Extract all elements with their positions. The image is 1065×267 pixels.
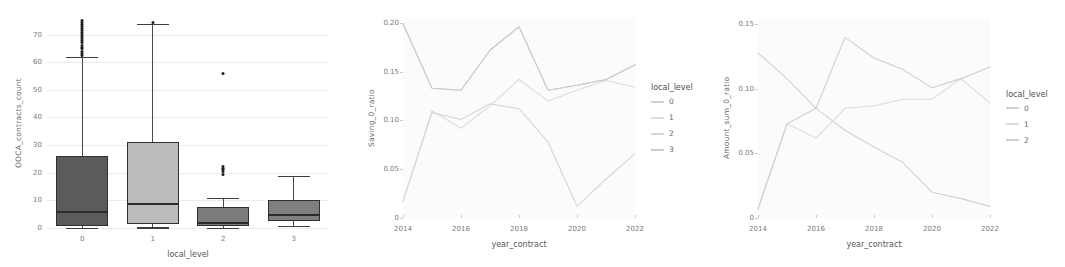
legend-label: 1	[669, 113, 674, 122]
boxplot-y-tick: 40	[0, 113, 42, 121]
legend-item[interactable]: 3	[651, 145, 693, 154]
legend-swatch	[651, 117, 664, 119]
median-line	[268, 214, 320, 216]
legend-swatch	[651, 133, 664, 135]
cap-lower	[278, 226, 310, 227]
box-rect	[268, 200, 320, 221]
saving-legend: local_level0123	[651, 83, 693, 161]
legend-label: 2	[669, 129, 674, 138]
line-y-tick: 0.10	[355, 116, 399, 124]
legend-label: 0	[669, 97, 674, 106]
line-x-tick: 2018	[865, 225, 883, 233]
line-y-tick: 0.10	[710, 85, 754, 93]
legend-swatch	[1006, 123, 1019, 125]
x-tickmark	[461, 215, 462, 218]
legend-title: local_level	[1006, 90, 1048, 99]
y-tickmark	[400, 169, 403, 170]
line-x-tick: 2022	[981, 225, 999, 233]
line-series	[403, 104, 635, 206]
y-tickmark	[755, 153, 758, 154]
legend-item[interactable]: 1	[651, 113, 693, 122]
cap-lower	[207, 228, 239, 229]
x-tickmark	[519, 215, 520, 218]
line-series	[758, 79, 990, 209]
legend-item[interactable]: 2	[651, 129, 693, 138]
line-x-tick: 2016	[807, 225, 825, 233]
legend-item[interactable]: 1	[1006, 120, 1048, 129]
boxplot-x-tick: 0	[80, 235, 84, 243]
line-y-tick: 0.05	[710, 149, 754, 157]
line-y-tick: 0.15	[355, 68, 399, 76]
saving-plot-area	[403, 18, 635, 218]
y-tickmark	[755, 24, 758, 25]
legend-label: 0	[1024, 104, 1029, 113]
legend-item[interactable]: 0	[1006, 104, 1048, 113]
y-tickmark	[400, 72, 403, 73]
y-tickmark	[755, 218, 758, 219]
legend-label: 1	[1024, 120, 1029, 129]
line-x-tick: 2016	[452, 225, 470, 233]
line-y-tick: 0.20	[355, 19, 399, 27]
boxplot-y-tick: 30	[0, 141, 42, 149]
y-tickmark	[755, 89, 758, 90]
y-tickmark	[400, 120, 403, 121]
x-tickmark	[816, 215, 817, 218]
x-tickmark	[874, 215, 875, 218]
legend-item[interactable]: 0	[651, 97, 693, 106]
line-x-tick: 2022	[626, 225, 644, 233]
boxplot-x-tick: 1	[151, 235, 155, 243]
boxplot-plot-area	[47, 18, 329, 228]
line-series	[758, 37, 990, 209]
boxplot-y-tick: 20	[0, 169, 42, 177]
legend-title: local_level	[651, 83, 693, 92]
boxplot-y-tick: 0	[0, 224, 42, 232]
line-y-tick: 0.15	[710, 20, 754, 28]
line-x-tick: 2020	[568, 225, 586, 233]
line-series-svg	[758, 18, 990, 218]
amount-plot-area	[758, 18, 990, 218]
amount-legend: local_level012	[1006, 90, 1048, 152]
line-x-tick: 2018	[510, 225, 528, 233]
line-x-tick: 2014	[394, 225, 412, 233]
y-tickmark	[400, 23, 403, 24]
saving-x-axis-label: year_contract	[403, 240, 635, 249]
line-y-tick: 0.05	[355, 165, 399, 173]
amount-x-axis-label: year_contract	[758, 240, 990, 249]
boxplot-y-tick: 60	[0, 58, 42, 66]
legend-swatch	[1006, 139, 1019, 141]
x-tickmark	[403, 215, 404, 218]
legend-swatch	[651, 149, 664, 151]
line-series	[403, 24, 635, 90]
y-tickmark	[400, 218, 403, 219]
line-x-tick: 2014	[749, 225, 767, 233]
x-tickmark	[932, 215, 933, 218]
x-tickmark	[758, 215, 759, 218]
cap-lower	[66, 228, 98, 229]
line-series-svg	[403, 18, 635, 218]
line-y-tick: 0	[355, 214, 399, 222]
boxplot-group	[47, 18, 329, 228]
boxplot-panel: OOCA_contracts_count local_level 0102030…	[0, 0, 355, 267]
amount-ratio-panel: Amount_sum_0_ratio year_contract local_l…	[710, 0, 1065, 267]
boxplot-y-tick: 50	[0, 86, 42, 94]
x-tickmark	[990, 215, 991, 218]
legend-label: 2	[1024, 136, 1029, 145]
legend-label: 3	[669, 145, 674, 154]
multi-panel-figure: OOCA_contracts_count local_level 0102030…	[0, 0, 1065, 267]
boxplot-y-tick: 10	[0, 196, 42, 204]
boxplot-x-tick: 3	[292, 235, 296, 243]
cap-upper	[278, 176, 310, 177]
saving-ratio-panel: Saving_0_ratio year_contract local_level…	[355, 0, 710, 267]
x-tickmark	[635, 215, 636, 218]
line-series	[758, 53, 990, 207]
line-y-tick: 0	[710, 214, 754, 222]
legend-item[interactable]: 2	[1006, 136, 1048, 145]
boxplot-x-tick: 2	[221, 235, 225, 243]
line-series	[403, 79, 635, 201]
line-x-tick: 2020	[923, 225, 941, 233]
boxplot-x-axis-label: local_level	[47, 250, 329, 259]
boxplot-y-tick: 70	[0, 31, 42, 39]
x-tickmark	[577, 215, 578, 218]
legend-swatch	[1006, 107, 1019, 109]
legend-swatch	[651, 101, 664, 103]
